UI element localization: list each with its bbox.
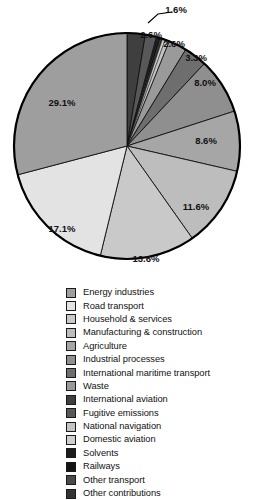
legend-item[interactable]: International aviation: [66, 393, 256, 406]
pie-svg: 29.1%17.1%13.6%11.6%8.6%8.0%3.3%2.6%2.6%…: [0, 0, 257, 282]
pie-slice-percentage-label: 17.1%: [49, 223, 76, 234]
legend-item-label: National navigation: [83, 421, 161, 432]
legend-item-label: Road transport: [83, 301, 144, 312]
legend-item-label: International aviation: [83, 394, 168, 405]
legend-item[interactable]: Energy industries: [66, 286, 256, 299]
legend-color-swatch: [66, 395, 76, 405]
legend-color-swatch: [66, 314, 76, 324]
legend-item[interactable]: Domestic aviation: [66, 433, 256, 446]
legend-item-label: Other transport: [83, 475, 145, 486]
legend-color-swatch: [66, 381, 76, 391]
legend-item-label: Other contributions: [83, 488, 161, 499]
legend-color-swatch: [66, 475, 76, 485]
pie-slice-percentage-label: 29.1%: [49, 97, 76, 108]
legend-item[interactable]: Agriculture: [66, 340, 256, 353]
pie-slice-percentage-label: 13.6%: [133, 253, 160, 264]
legend-color-swatch: [66, 448, 76, 458]
pie-slice-percentage-label: 11.6%: [183, 201, 210, 212]
legend-item-label: Waste: [83, 381, 109, 392]
legend-color-swatch: [66, 489, 76, 499]
legend-color-swatch: [66, 288, 76, 298]
legend-item[interactable]: Household & services: [66, 313, 256, 326]
legend-color-swatch: [66, 435, 76, 445]
pie-slice-percentage-label: 2.6%: [163, 38, 185, 49]
legend-item-label: Agriculture: [83, 341, 127, 352]
pie-slice-percentage-label: 8.0%: [194, 77, 216, 88]
legend-item[interactable]: Other transport: [66, 473, 256, 486]
legend-color-swatch: [66, 422, 76, 432]
legend-color-swatch: [66, 408, 76, 418]
legend-item[interactable]: Road transport: [66, 299, 256, 312]
legend-item-label: Industrial processes: [83, 354, 165, 365]
legend-item-label: Household & services: [83, 314, 172, 325]
legend-item[interactable]: Solvents: [66, 447, 256, 460]
legend: Energy industriesRoad transportHousehold…: [66, 286, 256, 500]
legend-item-label: Railways: [83, 461, 120, 472]
legend-item-label: Energy industries: [83, 287, 154, 298]
pie-slice-percentage-label: 3.3%: [185, 52, 207, 63]
legend-item[interactable]: International maritime transport: [66, 366, 256, 379]
legend-item-label: Manufacturing & construction: [83, 327, 202, 338]
legend-item[interactable]: National navigation: [66, 420, 256, 433]
legend-color-swatch: [66, 462, 76, 472]
legend-item-label: Solvents: [83, 448, 118, 459]
legend-item[interactable]: Manufacturing & construction: [66, 326, 256, 339]
legend-item-label: International maritime transport: [83, 368, 210, 379]
pie-slice-percentage-label: 8.6%: [195, 135, 217, 146]
legend-color-swatch: [66, 368, 76, 378]
pie-slice-percentage-label: 2.6%: [140, 29, 162, 40]
legend-item[interactable]: Fugitive emissions: [66, 407, 256, 420]
legend-item[interactable]: Railways: [66, 460, 256, 473]
legend-color-swatch: [66, 328, 76, 338]
legend-item[interactable]: Waste: [66, 380, 256, 393]
legend-item-label: Domestic aviation: [83, 434, 156, 445]
legend-item-label: Fugitive emissions: [83, 408, 159, 419]
legend-color-swatch: [66, 355, 76, 365]
legend-color-swatch: [66, 341, 76, 351]
pie-plot-area: 29.1%17.1%13.6%11.6%8.6%8.0%3.3%2.6%2.6%…: [0, 0, 257, 282]
legend-item[interactable]: Other contributions: [66, 487, 256, 500]
legend-color-swatch: [66, 301, 76, 311]
legend-item[interactable]: Industrial processes: [66, 353, 256, 366]
